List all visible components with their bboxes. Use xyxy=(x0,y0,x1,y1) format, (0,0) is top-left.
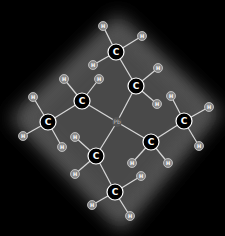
svg-text:H: H xyxy=(139,173,143,179)
svg-text:C: C xyxy=(45,117,52,127)
hydrogen-atom: H xyxy=(138,32,147,41)
carbon-atom: C xyxy=(74,93,90,109)
svg-text:H: H xyxy=(166,160,170,166)
hydrogen-atom: H xyxy=(128,159,137,168)
svg-text:C: C xyxy=(181,116,188,126)
svg-text:C: C xyxy=(113,47,120,57)
carbon-atom: C xyxy=(40,114,56,130)
lead-atom: Pb xyxy=(112,117,122,127)
hydrogen-atom: H xyxy=(89,61,98,70)
svg-text:H: H xyxy=(73,171,77,177)
svg-text:H: H xyxy=(156,65,160,71)
svg-text:H: H xyxy=(140,33,144,39)
svg-text:H: H xyxy=(197,143,201,149)
svg-text:C: C xyxy=(148,137,155,147)
hydrogen-atom: H xyxy=(60,75,69,84)
svg-text:C: C xyxy=(112,187,119,197)
hydrogen-atom: H xyxy=(137,172,146,181)
hydrogen-atom: H xyxy=(71,133,80,142)
svg-text:H: H xyxy=(128,213,132,219)
carbon-atom: C xyxy=(128,78,144,94)
hydrogen-atom: H xyxy=(71,170,80,179)
carbon-atom: C xyxy=(108,44,124,60)
hydrogen-atom: H xyxy=(88,201,97,210)
hydrogen-atom: H xyxy=(99,22,108,31)
molecule-structure: PbHHHHHHHHHHHHHHHHHHHHCCCCCCCC xyxy=(0,0,225,236)
svg-text:C: C xyxy=(79,96,86,106)
svg-text:H: H xyxy=(155,101,159,107)
svg-text:C: C xyxy=(93,151,100,161)
hydrogen-atom: H xyxy=(95,75,104,84)
svg-text:H: H xyxy=(169,93,173,99)
carbon-atom: C xyxy=(176,113,192,129)
hydrogen-atom: H xyxy=(153,100,162,109)
hydrogen-atom: H xyxy=(19,132,28,141)
svg-text:H: H xyxy=(31,94,35,100)
svg-text:H: H xyxy=(73,134,77,140)
hydrogen-atom: H xyxy=(58,143,67,152)
svg-text:C: C xyxy=(133,81,140,91)
hydrogen-atom: H xyxy=(205,103,214,112)
hydrogen-atom: H xyxy=(164,159,173,168)
carbon-atom: C xyxy=(107,184,123,200)
hydrogen-atom: H xyxy=(126,212,135,221)
hydrogen-atom: H xyxy=(167,92,176,101)
svg-text:H: H xyxy=(130,160,134,166)
hydrogen-atom: H xyxy=(195,142,204,151)
svg-text:H: H xyxy=(97,76,101,82)
svg-text:H: H xyxy=(91,62,95,68)
svg-text:H: H xyxy=(90,202,94,208)
svg-text:H: H xyxy=(207,104,211,110)
atoms: PbHHHHHHHHHHHHHHHHHHHHCCCCCCCC xyxy=(19,22,214,221)
hydrogen-atom: H xyxy=(29,93,38,102)
svg-text:H: H xyxy=(60,144,64,150)
svg-text:H: H xyxy=(21,133,25,139)
svg-text:H: H xyxy=(62,76,66,82)
carbon-atom: C xyxy=(143,134,159,150)
hydrogen-atom: H xyxy=(154,64,163,73)
carbon-atom: C xyxy=(88,148,104,164)
svg-text:H: H xyxy=(101,23,105,29)
svg-text:Pb: Pb xyxy=(113,118,121,125)
molecule-diagram: Tetraethyllead PbHHHHHHHHHHHHHHHHHHHHCCC… xyxy=(0,0,225,236)
